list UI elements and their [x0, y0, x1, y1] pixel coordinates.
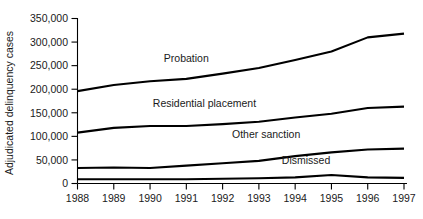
series-line: [78, 34, 405, 92]
x-tick-label: 1988: [66, 192, 90, 204]
x-axis-tick-labels: 1988198919901991199219931994199519961997: [66, 192, 416, 204]
series-label: Other sanction: [232, 128, 300, 140]
x-tick-label: 1996: [356, 192, 380, 204]
chart-container: 050,000100,000150,000200,000250,000300,0…: [0, 0, 423, 219]
x-axis-ticks: [78, 184, 405, 190]
y-tick-label: 250,000: [30, 59, 68, 71]
series-line: [78, 175, 405, 179]
delinquency-line-chart: 050,000100,000150,000200,000250,000300,0…: [0, 0, 423, 219]
x-tick-label: 1995: [320, 192, 344, 204]
series-annotations: ProbationResidential placementOther sanc…: [153, 52, 331, 166]
x-tick-label: 1993: [247, 192, 271, 204]
y-axis-ticks: [72, 19, 78, 184]
series-line: [78, 149, 405, 168]
y-tick-label: 50,000: [36, 154, 68, 166]
y-tick-label: 0: [62, 177, 68, 189]
series-label: Residential placement: [153, 97, 256, 109]
y-tick-label: 350,000: [30, 12, 68, 24]
x-tick-label: 1989: [102, 192, 126, 204]
x-tick-label: 1991: [175, 192, 199, 204]
series-label: Probation: [164, 52, 209, 64]
y-tick-label: 300,000: [30, 36, 68, 48]
y-tick-label: 100,000: [30, 130, 68, 142]
x-tick-label: 1997: [392, 192, 416, 204]
x-tick-label: 1990: [138, 192, 162, 204]
y-axis-title: Adjudicated delinquency cases: [3, 31, 15, 175]
x-tick-label: 1994: [283, 192, 307, 204]
x-tick-label: 1992: [211, 192, 235, 204]
y-tick-label: 200,000: [30, 83, 68, 95]
series-label: Dismissed: [282, 154, 331, 166]
y-tick-label: 150,000: [30, 107, 68, 119]
y-axis-tick-labels: 050,000100,000150,000200,000250,000300,0…: [30, 12, 68, 189]
